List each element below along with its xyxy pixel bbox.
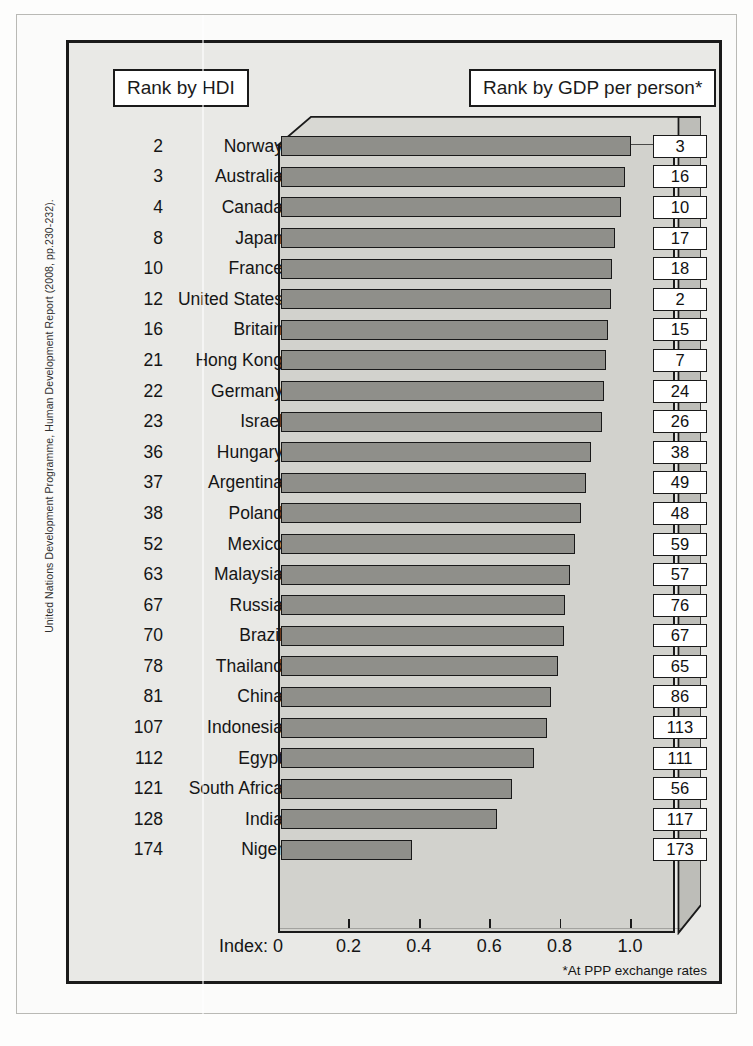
hdi-bar [281, 289, 611, 309]
table-row: 112Egypt111 [69, 743, 725, 774]
country-label: Malaysia [165, 564, 283, 585]
source-credit: United Nations Development Programme, Hu… [43, 96, 55, 736]
country-label: South Africa [165, 778, 283, 799]
hdi-rank-value: 78 [91, 656, 163, 677]
gdp-rank-box: 38 [653, 441, 707, 464]
hdi-rank-value: 4 [91, 197, 163, 218]
gdp-rank-box: 10 [653, 196, 707, 219]
hdi-bar [281, 442, 591, 462]
bar-track [281, 437, 651, 468]
axis-tick-label: 0.2 [336, 936, 361, 957]
table-row: 128India117 [69, 804, 725, 835]
country-label: Russia [165, 595, 283, 616]
table-row: 22Germany24 [69, 376, 725, 407]
hdi-rank-value: 16 [91, 319, 163, 340]
axis-tick [278, 919, 280, 928]
hdi-rank-value: 128 [91, 809, 163, 830]
hdi-rank-value: 3 [91, 166, 163, 187]
bar-track [281, 192, 651, 223]
gdp-rank-box: 67 [653, 624, 707, 647]
bar-track [281, 498, 651, 529]
table-row: 52Mexico59 [69, 529, 725, 560]
hdi-rank-value: 36 [91, 442, 163, 463]
gdp-rank-box: 18 [653, 257, 707, 280]
gdp-rank-box: 59 [653, 533, 707, 556]
gdp-rank-box: 49 [653, 471, 707, 494]
country-label: Egypt [165, 748, 283, 769]
table-row: 8Japan17 [69, 223, 725, 254]
gdp-rank-box: 173 [653, 838, 707, 861]
country-label: Poland [165, 503, 283, 524]
hdi-rank-value: 38 [91, 503, 163, 524]
hdi-bar [281, 626, 564, 646]
axis-tick-label: 0.6 [477, 936, 502, 957]
gdp-rank-box: 111 [653, 747, 707, 770]
country-label: Argentina [165, 472, 283, 493]
hdi-rank-value: 70 [91, 625, 163, 646]
table-row: 21Hong Kong7 [69, 345, 725, 376]
bar-track [281, 253, 651, 284]
gdp-rank-box: 2 [653, 288, 707, 311]
gdp-rank-box: 86 [653, 685, 707, 708]
hdi-rank-value: 37 [91, 472, 163, 493]
country-label: Hungary [165, 442, 283, 463]
bar-track [281, 345, 651, 376]
hdi-bar [281, 718, 547, 738]
hdi-rank-value: 10 [91, 258, 163, 279]
bar-track [281, 468, 651, 499]
country-label: Brazil [165, 625, 283, 646]
hdi-bar [281, 748, 534, 768]
country-label: Britain [165, 319, 283, 340]
bar-track [281, 651, 651, 682]
axis-tick-label: 0.8 [547, 936, 572, 957]
axis-tick [348, 919, 350, 928]
country-label: Mexico [165, 534, 283, 555]
hdi-bar [281, 503, 581, 523]
hdi-bar [281, 259, 612, 279]
axis-tick-label: 0.4 [406, 936, 431, 957]
gdp-rank-box: 15 [653, 318, 707, 341]
hdi-rank-value: 67 [91, 595, 163, 616]
hdi-bar [281, 320, 608, 340]
figure-frame: United Nations Development Programme, Hu… [16, 14, 737, 1014]
country-label: Israel [165, 411, 283, 432]
gdp-rank-box: 16 [653, 165, 707, 188]
hdi-bar [281, 656, 558, 676]
gdp-rank-box: 117 [653, 808, 707, 831]
table-row: 70Brazil67 [69, 621, 725, 652]
gdp-rank-box: 7 [653, 349, 707, 372]
hdi-bar [281, 136, 631, 156]
hdi-rank-value: 81 [91, 686, 163, 707]
bar-track [281, 835, 651, 866]
table-row: 37Argentina49 [69, 468, 725, 499]
hdi-rank-value: 52 [91, 534, 163, 555]
x-axis-title: Index: [219, 936, 268, 957]
table-row: 10France18 [69, 253, 725, 284]
bar-track [281, 376, 651, 407]
gdp-rank-box: 24 [653, 380, 707, 403]
hdi-rank-value: 174 [91, 839, 163, 860]
bar-track [281, 284, 651, 315]
axis-tick [419, 919, 421, 928]
hdi-rank-value: 63 [91, 564, 163, 585]
bar-track [281, 131, 651, 162]
table-row: 38Poland48 [69, 498, 725, 529]
table-row: 63Malaysia57 [69, 559, 725, 590]
x-axis-ticks [278, 928, 682, 929]
country-label: Hong Kong [165, 350, 283, 371]
bar-track [281, 315, 651, 346]
hdi-rank-value: 12 [91, 289, 163, 310]
hdi-bar [281, 779, 512, 799]
bar-track [281, 804, 651, 835]
bar-track [281, 529, 651, 560]
callout-rank-by-gdp: Rank by GDP per person* [469, 69, 716, 107]
hdi-bar [281, 534, 575, 554]
hdi-bar [281, 167, 625, 187]
gdp-rank-box: 26 [653, 410, 707, 433]
hdi-bar [281, 595, 565, 615]
hdi-rank-value: 112 [91, 748, 163, 769]
gdp-rank-box: 57 [653, 563, 707, 586]
hdi-rank-value: 2 [91, 136, 163, 157]
country-label: Australia [165, 166, 283, 187]
bar-track [281, 773, 651, 804]
